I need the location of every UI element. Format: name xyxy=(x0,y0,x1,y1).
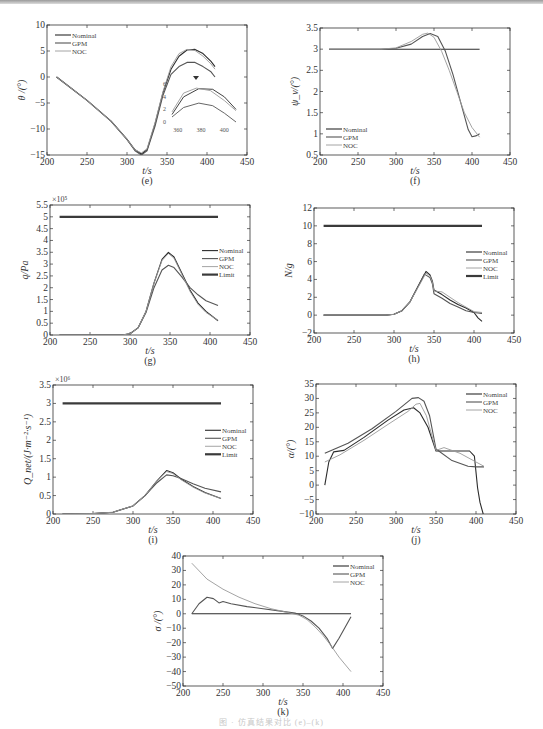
legend: NominalGPMNOCLimit xyxy=(205,427,247,459)
x-tick-label: 450 xyxy=(376,688,391,698)
x-tick-label: 350 xyxy=(166,516,181,526)
y-tick-label: −15 xyxy=(30,150,45,160)
y-tick-label: 2 xyxy=(313,87,318,97)
y-tick-label: 3 xyxy=(313,44,318,54)
legend: NominalGPMNOC xyxy=(466,391,508,415)
legend-item: Nominal xyxy=(350,563,375,571)
x-tick-label: 300 xyxy=(126,516,141,526)
y-tick-label: −5 xyxy=(35,98,45,108)
x-tick-label: 350 xyxy=(427,335,442,345)
y-tick-label: −40 xyxy=(166,667,181,677)
x-tick-label: 300 xyxy=(120,157,135,167)
legend-item: Nominal xyxy=(219,247,244,255)
legend-item: GPM xyxy=(222,435,238,443)
series-nominal xyxy=(63,471,221,515)
y-tick-label: 4.5 xyxy=(36,224,48,234)
chart-canvas: 200250300350400450−15−10−50510t/s(e)θ /(… xyxy=(0,0,543,729)
y-tick-label: 30 xyxy=(305,393,315,403)
legend-item: Nominal xyxy=(343,126,368,134)
legend-item: Nominal xyxy=(483,249,508,257)
x-tick-label: 450 xyxy=(503,157,518,167)
y-tick-label: 35 xyxy=(305,379,315,389)
series-nominal xyxy=(324,271,482,321)
y-tick-label: 0 xyxy=(40,72,45,82)
x-tick-label: 300 xyxy=(389,516,404,526)
y-tick-label: 5 xyxy=(309,466,314,476)
y-axis-label: N/g xyxy=(283,263,294,278)
x-tick-label: 300 xyxy=(256,688,271,698)
y-tick-label: 10 xyxy=(36,20,46,30)
chart-g: 20025030035040045000.511.522.533.544.555… xyxy=(19,195,257,367)
x-tick-label: 350 xyxy=(163,337,178,347)
y-tick-label: 40 xyxy=(172,551,182,561)
chart-j: 200250300350400450−10−505101520253035t/s… xyxy=(285,379,523,546)
y-tick-label: 5.5 xyxy=(36,200,48,210)
x-tick-label: 400 xyxy=(336,688,351,698)
legend-item: NOC xyxy=(219,263,234,271)
series-noc xyxy=(63,472,221,514)
y-tick-label: 20 xyxy=(172,580,182,590)
legend-item: Nominal xyxy=(72,32,97,40)
legend-item: Limit xyxy=(219,271,235,279)
y-tick-label: 6 xyxy=(307,257,312,267)
figure-caption: 图 · 仿真结果对比 (e)–(k) xyxy=(0,716,543,727)
y-tick-label: 1 xyxy=(43,306,48,316)
svg-text:400: 400 xyxy=(220,127,229,133)
y-tick-label: 1 xyxy=(313,129,318,139)
x-tick-label: 400 xyxy=(206,516,221,526)
y-tick-label: −2 xyxy=(302,328,312,338)
y-tick-label: 15 xyxy=(305,437,315,447)
x-tick-label: 250 xyxy=(83,337,98,347)
legend-item: NOC xyxy=(72,48,87,56)
legend: NominalGPMNOC xyxy=(326,126,368,150)
x-tick-label: 350 xyxy=(160,157,175,167)
x-tick-label: 400 xyxy=(469,516,484,526)
panel-label: (g) xyxy=(144,355,156,367)
legend: NominalGPMNOC xyxy=(333,563,375,587)
y-tick-label: 2 xyxy=(46,435,51,445)
legend-item: NOC xyxy=(483,407,498,415)
legend-item: GPM xyxy=(350,571,366,579)
y-tick-label: −20 xyxy=(166,638,181,648)
legend-item: NOC xyxy=(343,142,358,150)
x-tick-label: 450 xyxy=(507,335,522,345)
series-nominal xyxy=(325,408,483,514)
series-noc xyxy=(60,254,218,336)
y-tick-label: 0 xyxy=(307,310,312,320)
x-tick-label: 450 xyxy=(509,516,524,526)
chart-i: 20025030035040045000.511.522.533.5×10⁶t/… xyxy=(22,375,260,546)
y-tick-label: 0.5 xyxy=(306,150,318,160)
x-tick-label: 400 xyxy=(467,335,482,345)
series-nominal xyxy=(57,49,215,154)
y-axis-label: σ /(°) xyxy=(152,610,164,632)
panel-label: (h) xyxy=(408,353,420,365)
y-tick-label: 0 xyxy=(309,480,314,490)
series-noc xyxy=(325,403,484,466)
y-tick-label: 1.5 xyxy=(36,295,48,305)
x-tick-label: 350 xyxy=(427,157,442,167)
y-tick-label: 12 xyxy=(303,203,313,213)
x-tick-label: 450 xyxy=(246,516,261,526)
x-tick-label: 450 xyxy=(240,157,255,167)
inset-series-nominal xyxy=(172,89,236,115)
y-tick-label: 3.5 xyxy=(39,380,51,390)
legend-item: GPM xyxy=(343,134,359,142)
chart-e: 200250300350400450−15−10−50510t/s(e)θ /(… xyxy=(16,20,254,187)
x-tick-label: 250 xyxy=(80,157,95,167)
y-tick-label: 4 xyxy=(307,274,312,284)
y-tick-label: 10 xyxy=(303,221,313,231)
x-tick-label: 300 xyxy=(389,157,404,167)
y-tick-label: 25 xyxy=(305,408,315,418)
y-tick-label: 3 xyxy=(43,259,48,269)
y-tick-label: 0.5 xyxy=(36,318,48,328)
y-tick-label: 5 xyxy=(40,46,45,56)
legend: NominalGPMNOCLimit xyxy=(202,247,244,279)
svg-text:2: 2 xyxy=(163,106,166,112)
svg-text:380: 380 xyxy=(197,127,206,133)
y-tick-label: 3.5 xyxy=(36,247,48,257)
y-tick-label: −5 xyxy=(304,495,314,505)
y-axis-label: Q_net/(J·m⁻²·s⁻¹) xyxy=(22,413,34,485)
x-tick-label: 300 xyxy=(123,337,138,347)
series-noc xyxy=(324,273,482,315)
legend-item: GPM xyxy=(483,257,499,265)
